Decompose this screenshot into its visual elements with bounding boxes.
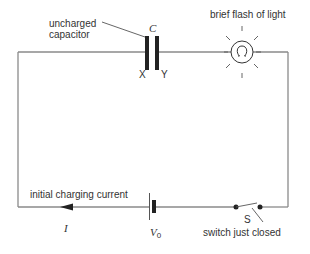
- battery-symbol: V0: [150, 226, 162, 240]
- capacitor-caption-line2: capacitor: [49, 29, 90, 40]
- circuit-wires: [18, 52, 288, 207]
- circuit-diagram: uncharged capacitor C X Y brief flash of…: [0, 0, 310, 254]
- lamp: brief flash of light: [210, 9, 286, 78]
- current-caption: initial charging current: [30, 189, 128, 200]
- switch-contact-right: [258, 205, 263, 210]
- lamp-filament-icon: [237, 46, 246, 56]
- switch-leader-line: [252, 208, 263, 222]
- capacitor-plate-x: [145, 36, 149, 70]
- lamp-caption: brief flash of light: [210, 9, 286, 20]
- switch-symbol: S: [244, 214, 251, 225]
- capacitor: uncharged capacitor C X Y: [49, 18, 168, 80]
- capacitor-caption-line1: uncharged: [49, 18, 96, 29]
- current-arrow-icon: [60, 204, 73, 211]
- current-symbol: I: [63, 222, 69, 234]
- capacitor-symbol: C: [149, 22, 157, 34]
- battery-short-plate: [152, 200, 156, 213]
- battery: V0: [150, 193, 162, 240]
- switch-caption: switch just closed: [203, 227, 281, 238]
- lamp-bulb-icon: [231, 41, 253, 63]
- switch: S switch just closed: [203, 203, 281, 238]
- current-indicator: initial charging current I: [30, 189, 128, 234]
- plate-label-y: Y: [161, 69, 168, 80]
- capacitor-plate-y: [155, 36, 159, 70]
- switch-lever: [236, 203, 257, 207]
- plate-label-x: X: [139, 69, 146, 80]
- capacitor-leader-line: [102, 22, 145, 37]
